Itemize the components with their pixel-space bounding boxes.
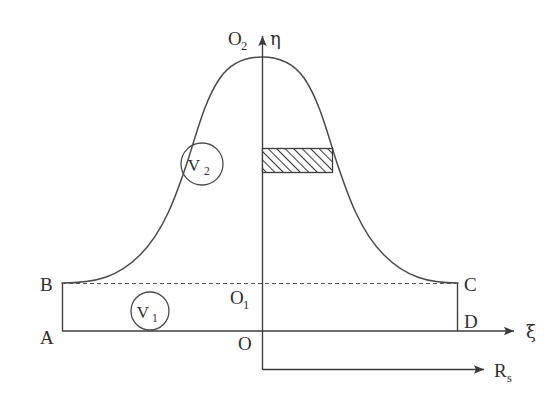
schematic-diagram: V 2 V 1 O 2 η B A C D O 1 O ξ R s xyxy=(0,0,556,409)
point-label-D: D xyxy=(464,311,478,332)
point-label-A: A xyxy=(40,327,54,348)
rs-axis-label-sub: s xyxy=(507,371,512,385)
point-label-C: C xyxy=(464,274,477,295)
region-tag-V2-label: V xyxy=(188,156,201,175)
hatched-strip xyxy=(263,149,333,173)
diagram-canvas: V 2 V 1 O 2 η B A C D O 1 O ξ R s xyxy=(0,0,556,409)
point-label-O2: O xyxy=(228,28,242,49)
eta-axis-label: η xyxy=(270,28,281,49)
rs-axis-label: R xyxy=(494,360,507,381)
bell-curve xyxy=(62,57,458,283)
point-label-O1: O xyxy=(230,287,244,308)
point-label-O2-sub: 2 xyxy=(241,39,247,53)
xi-axis-label: ξ xyxy=(526,321,536,342)
region-tag-V1-sub: 1 xyxy=(152,312,158,324)
point-label-O: O xyxy=(238,333,252,354)
point-label-B: B xyxy=(40,274,53,295)
region-tag-V2-sub: 2 xyxy=(204,165,210,177)
point-label-O1-sub: 1 xyxy=(243,298,249,312)
region-tag-V1-label: V xyxy=(137,303,150,322)
